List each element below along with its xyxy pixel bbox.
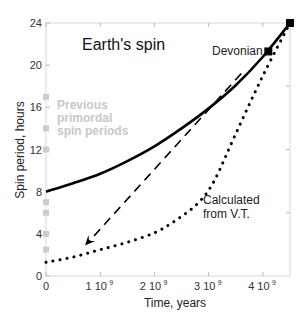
calculated-label-line2: from V.T. [203, 207, 250, 221]
x-tick-label: 2 10 [140, 280, 161, 292]
primordal-period-marker [43, 247, 49, 253]
primordal-label-line3: spin periods [57, 124, 129, 138]
primordal-period-marker [43, 125, 49, 131]
y-tick-label: 24 [30, 17, 42, 29]
x-tick-label: 1 10 [86, 280, 107, 292]
x-tick-exponent: 9 [272, 279, 276, 286]
primordal-label-line1: Previous [57, 98, 108, 112]
x-tick-label: 3 10 [194, 280, 215, 292]
primordal-period-marker [43, 147, 49, 153]
primordal-label-line2: primordal [57, 111, 112, 125]
x-tick-exponent: 9 [163, 279, 167, 286]
axes-frame [46, 23, 290, 276]
primordal-period-marker [43, 94, 49, 100]
present-day-marker [286, 19, 294, 27]
y-tick-label: 0 [36, 270, 42, 282]
x-axis-title: Time, years [144, 296, 206, 310]
spin-period-chart: 01 1092 1093 1094 109 04812162024 Earth'… [0, 0, 308, 324]
primordal-period-marker [43, 210, 49, 216]
calculated-label-line1: Calculated [203, 193, 260, 207]
x-tick-label: 0 [43, 280, 49, 292]
x-tick-label: 4 10 [248, 280, 269, 292]
y-tick-label: 4 [36, 228, 42, 240]
y-tick-label: 12 [30, 144, 42, 156]
primordal-period-marker [43, 199, 49, 205]
primordal-period-marker [43, 231, 49, 237]
plot-area-border [46, 23, 290, 276]
y-tick-label: 8 [36, 186, 42, 198]
y-axis-title: Spin period, hours [13, 101, 27, 198]
arrowhead-icon [85, 235, 95, 245]
x-tick-exponent: 9 [218, 279, 222, 286]
devonian-label: Devonian [212, 44, 263, 58]
x-tick-exponent: 9 [109, 279, 113, 286]
devonian-marker [264, 47, 272, 55]
y-tick-label: 16 [30, 101, 42, 113]
chart-title: Earth's spin [82, 36, 165, 53]
calculated-vt-curve [46, 23, 290, 262]
y-tick-label: 20 [30, 59, 42, 71]
x-axis-ticks: 01 1092 1093 1094 109 [43, 23, 276, 292]
